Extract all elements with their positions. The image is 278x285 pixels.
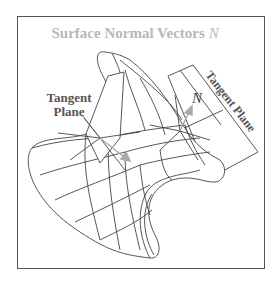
normal-vector-label: N⃗ [191, 90, 214, 106]
left-plane-label-line2: Plane [53, 104, 84, 119]
left-plane-label-line1: Tangent [46, 90, 92, 105]
surface-diagram: Tangent Plane Tangent Plane N⃗ [0, 0, 278, 285]
